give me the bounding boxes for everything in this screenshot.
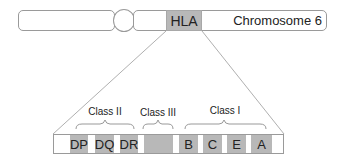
gene-b: B [179, 135, 198, 153]
class-iii-label: Class III [136, 107, 180, 118]
gene-class-iii [144, 135, 173, 153]
class-i-label: Class I [205, 105, 245, 116]
zoom-line-right [202, 31, 284, 134]
chromosome-label: Chromosome 6 [210, 13, 322, 29]
chromosome-short-arm [18, 10, 115, 31]
class-ii-brace [76, 120, 134, 129]
gene-dr: DR [120, 135, 138, 153]
gene-dp: DP [70, 135, 88, 153]
zoom-line-left [53, 31, 166, 134]
class-ii-label: Class II [80, 106, 130, 117]
gene-e: E [227, 135, 246, 153]
hla-region: HLA [166, 10, 202, 31]
gene-dq: DQ [95, 135, 114, 153]
gene-a: A [251, 135, 272, 153]
centromere [113, 9, 135, 32]
hla-label: HLA [170, 13, 197, 29]
gene-c: C [203, 135, 222, 153]
class-iii-brace [143, 120, 173, 129]
class-i-brace [185, 120, 266, 129]
